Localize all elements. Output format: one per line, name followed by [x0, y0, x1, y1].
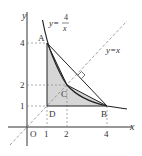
point-label-a: A [38, 33, 45, 43]
right-angle-marker [78, 72, 85, 79]
y-tick-2: 2 [20, 80, 25, 90]
hyperbola-label: y= [48, 18, 59, 28]
x-axis-label: x [129, 121, 135, 132]
y-axis-label: y [21, 10, 27, 21]
y-tick-1: 1 [20, 101, 25, 111]
y-tick-4: 4 [20, 38, 25, 48]
point-label-b: B [101, 109, 107, 119]
line-y-equals-x [10, 21, 127, 145]
x-tick-1: 1 [44, 129, 49, 139]
line-label: y=x [105, 45, 120, 55]
hyperbola-denominator: x [62, 24, 67, 33]
origin-label: O [30, 129, 37, 139]
coordinate-diagram: y x O 1 2 4 1 2 4 A B C D y= 4 x y=x [0, 0, 142, 156]
hyperbola-numerator: 4 [64, 13, 68, 22]
x-tick-2: 2 [64, 129, 69, 139]
point-label-c: C [61, 89, 67, 99]
point-label-d: D [49, 109, 56, 119]
x-tick-4: 4 [104, 129, 109, 139]
